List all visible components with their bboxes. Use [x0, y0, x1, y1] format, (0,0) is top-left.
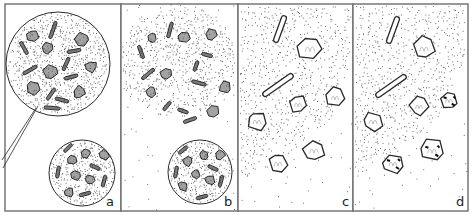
- crystal-polygon: [68, 155, 77, 164]
- panels-group: [2, 4, 468, 211]
- panel-c: [238, 4, 353, 211]
- panel-label-c: c: [342, 194, 349, 209]
- panel-label-a: a: [106, 194, 114, 209]
- panel-b: [121, 4, 238, 211]
- crystal-polygon: [148, 34, 156, 43]
- crystal-polygon: [421, 139, 443, 160]
- panel-a: [2, 4, 121, 211]
- panel-label-d: d: [456, 194, 464, 209]
- panel-label-b: b: [224, 194, 232, 209]
- panel-d: [353, 4, 468, 211]
- crystal-polygon: [85, 175, 95, 184]
- crystal-polygon: [26, 31, 39, 41]
- crystal-polygon: [178, 32, 190, 42]
- figure-four-panels: a b c d: [0, 0, 472, 215]
